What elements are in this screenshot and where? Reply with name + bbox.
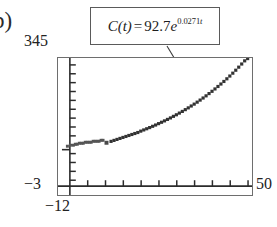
x-axis-ticks [88,180,248,186]
fitted-curve-points [109,58,249,143]
equation-exponent: 0.0271t [177,16,202,26]
equation-callout-box: C(t)=92.7e0.0271t [90,7,220,45]
equation-exponent-rate: 0.0271 [177,16,200,26]
equation-coefficient: 92.7 [144,18,170,34]
data-point-group [105,141,109,145]
figure-label: b) [0,8,12,34]
equation-function: C(t) [108,18,132,34]
equation-exponent-variable: t [200,16,202,26]
y-axis-ticks [70,65,76,180]
x-axis-min-label: −12 [45,197,70,215]
plot-frame [57,57,253,196]
x-axis-max-label: 50 [256,175,272,193]
figure-container: b) C(t)=92.7e0.0271t [0,0,277,227]
plot-canvas [58,58,252,195]
equation-text: C(t)=92.7e0.0271t [108,17,203,35]
y-axis-max-label: 345 [24,32,48,50]
equation-equals: = [132,18,144,34]
data-cluster [66,139,105,148]
y-axis-min-label: −3 [24,175,41,193]
